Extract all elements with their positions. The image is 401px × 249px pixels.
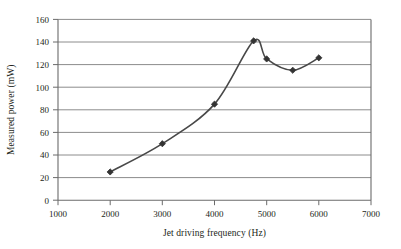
x-tick-label: 3000	[153, 209, 172, 219]
y-tick-label: 80	[40, 105, 50, 115]
y-tick-label: 140	[36, 37, 50, 47]
y-tick-label: 60	[40, 128, 50, 138]
x-tick-label: 1000	[49, 209, 68, 219]
x-tick-label: 4000	[206, 209, 225, 219]
x-tick-label: 6000	[310, 209, 329, 219]
y-tick-label: 160	[36, 15, 50, 25]
chart-figure: 160 140 120 100 80 60 40 20 0 1000 2000 …	[0, 0, 401, 249]
y-tick-label: 0	[45, 196, 50, 206]
y-tick-label: 40	[40, 150, 50, 160]
y-axis-title: Measured power (mW)	[6, 65, 17, 156]
x-tick-label: 5000	[258, 209, 277, 219]
x-tick-label: 2000	[101, 209, 120, 219]
x-tick-label: 7000	[362, 209, 381, 219]
x-axis-title: Jet driving frequency (Hz)	[163, 228, 266, 239]
y-tick-label: 120	[36, 60, 50, 70]
chart-canvas: 160 140 120 100 80 60 40 20 0 1000 2000 …	[0, 0, 401, 249]
y-tick-label: 20	[40, 173, 50, 183]
y-tick-label: 100	[36, 83, 50, 93]
